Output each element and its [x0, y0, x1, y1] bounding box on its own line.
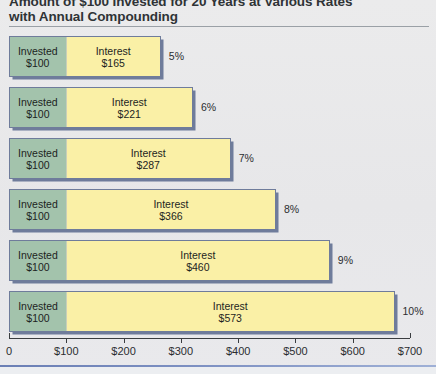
bar-segment-invested: Invested$100 [10, 241, 67, 280]
chart-figure: Amount of $100 Invested for 20 Years at … [0, 0, 436, 374]
x-axis-tick-label: $200 [111, 345, 135, 357]
title-divider [9, 26, 429, 27]
footer-band [0, 367, 436, 374]
invested-label: Invested [18, 300, 58, 312]
bar-segment-invested: Invested$100 [10, 292, 67, 331]
x-axis-tick [66, 338, 67, 343]
plot-area: Invested$100Interest$1655%Invested$100In… [0, 30, 436, 338]
x-axis-tick-label: $600 [340, 345, 364, 357]
stacked-bar: Invested$100Interest$573 [9, 291, 395, 332]
bar-segment-invested: Invested$100 [10, 190, 67, 229]
rate-label: 7% [239, 152, 254, 164]
bar-segment-interest: Interest$460 [67, 241, 329, 280]
interest-label: Interest [153, 198, 188, 210]
stacked-bar: Invested$100Interest$287 [9, 138, 231, 179]
rate-label: 8% [284, 203, 299, 215]
invested-value: $100 [26, 210, 49, 222]
rate-label: 6% [201, 101, 216, 113]
bar-segment-interest: Interest$366 [67, 190, 275, 229]
stacked-bar: Invested$100Interest$221 [9, 87, 193, 128]
interest-label: Interest [131, 147, 166, 159]
chart-title-line-2: with Annual Compounding [9, 9, 429, 24]
invested-value: $100 [26, 261, 49, 273]
x-axis-tick [410, 333, 411, 338]
invested-label: Invested [18, 147, 58, 159]
interest-label: Interest [213, 300, 248, 312]
x-axis-tick-label: $700 [398, 345, 422, 357]
invested-label: Invested [18, 96, 58, 108]
invested-value: $100 [26, 57, 49, 69]
bar-segment-interest: Interest$221 [67, 88, 192, 127]
invested-label: Invested [18, 45, 58, 57]
stacked-bar: Invested$100Interest$460 [9, 240, 330, 281]
bar-row: Invested$100Interest$2216% [0, 81, 436, 131]
stacked-bar: Invested$100Interest$165 [9, 36, 161, 77]
x-axis-tick [295, 338, 296, 343]
bar-segment-interest: Interest$287 [67, 139, 230, 178]
bar-row: Invested$100Interest$2877% [0, 132, 436, 182]
chart-title: Amount of $100 Invested for 20 Years at … [9, 0, 429, 24]
x-axis-tick [9, 333, 10, 338]
rate-label: 5% [169, 50, 184, 62]
invested-value: $100 [26, 108, 49, 120]
x-axis-tick [238, 338, 239, 343]
interest-value: $165 [101, 57, 124, 69]
x-axis-tick-label: $500 [283, 345, 307, 357]
x-axis-tick [353, 338, 354, 343]
interest-label: Interest [180, 249, 215, 261]
invested-value: $100 [26, 312, 49, 324]
interest-label: Interest [112, 96, 147, 108]
bar-row: Invested$100Interest$4609% [0, 234, 436, 284]
x-axis-line [9, 338, 410, 339]
interest-value: $287 [137, 159, 160, 171]
x-axis-tick [124, 338, 125, 343]
rate-label: 9% [338, 254, 353, 266]
interest-value: $366 [159, 210, 182, 222]
bar-segment-interest: Interest$573 [67, 292, 394, 331]
bar-row: Invested$100Interest$1655% [0, 30, 436, 80]
chart-title-line-1: Amount of $100 Invested for 20 Years at … [9, 0, 429, 9]
bar-segment-invested: Invested$100 [10, 88, 67, 127]
x-axis-tick-label: $100 [54, 345, 78, 357]
invested-value: $100 [26, 159, 49, 171]
invested-label: Invested [18, 249, 58, 261]
x-axis-tick-label: $300 [169, 345, 193, 357]
interest-value: $573 [219, 312, 242, 324]
interest-value: $221 [118, 108, 141, 120]
bar-segment-invested: Invested$100 [10, 37, 67, 76]
interest-label: Interest [96, 45, 131, 57]
rate-label: 10% [403, 305, 424, 317]
stacked-bar: Invested$100Interest$366 [9, 189, 276, 230]
x-axis-tick-label: 0 [6, 345, 12, 357]
bar-row: Invested$100Interest$3668% [0, 183, 436, 233]
x-axis-tick-label: $400 [226, 345, 250, 357]
bar-segment-interest: Interest$165 [67, 37, 160, 76]
invested-label: Invested [18, 198, 58, 210]
x-axis-tick [181, 338, 182, 343]
bar-row: Invested$100Interest$57310% [0, 285, 436, 335]
interest-value: $460 [186, 261, 209, 273]
bar-segment-invested: Invested$100 [10, 139, 67, 178]
